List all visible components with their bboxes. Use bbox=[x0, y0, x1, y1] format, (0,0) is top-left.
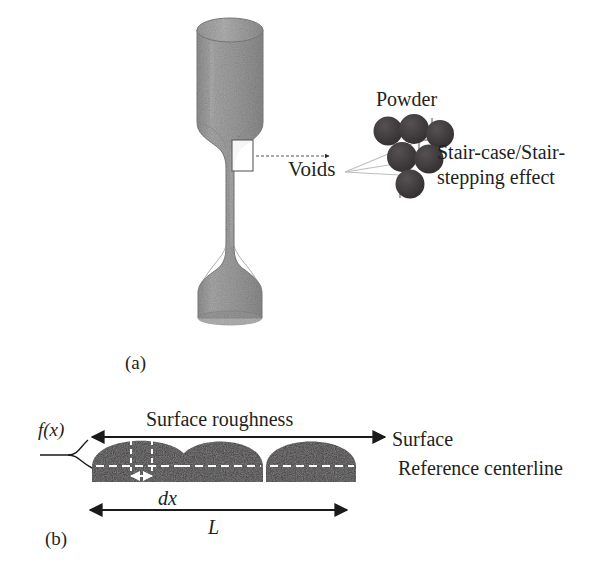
surface-label: Surface bbox=[392, 428, 453, 450]
panel-b-caption: (b) bbox=[45, 528, 67, 549]
length-L-label: L bbox=[208, 516, 219, 538]
surface-bump bbox=[178, 442, 263, 483]
surface-roughness-label: Surface roughness bbox=[146, 408, 293, 430]
fx-label: f(x) bbox=[38, 419, 64, 440]
dx-label: dx bbox=[158, 487, 177, 509]
panel-b-graphics bbox=[0, 0, 607, 570]
figure-container: Powder Voids Stair-case/Stair- stepping … bbox=[0, 0, 607, 570]
reference-centerline-label: Reference centerline bbox=[398, 457, 563, 479]
surface-bump bbox=[266, 442, 356, 483]
fx-leader-brace bbox=[40, 440, 92, 468]
